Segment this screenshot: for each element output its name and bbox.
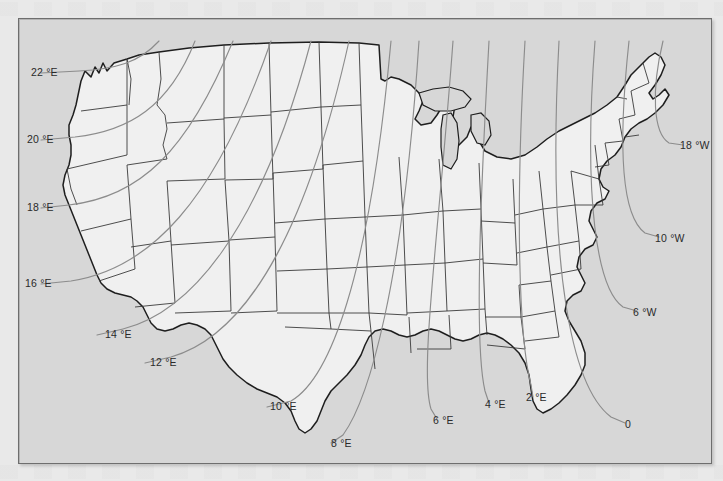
declination-label-12E: 12 °E	[150, 357, 177, 368]
declination-label-18E: 18 °E	[27, 202, 54, 213]
scan-bleed-bottom	[0, 465, 723, 479]
declination-label-6W: 6 °W	[633, 307, 657, 318]
declination-label-4E: 4 °E	[485, 399, 506, 410]
declination-label-16E: 16 °E	[25, 278, 52, 289]
declination-label-18W: 18 °W	[680, 140, 710, 151]
declination-label-14E: 14 °E	[105, 329, 132, 340]
figure-page: 22 °E 20 °E 18 °E 16 °E 14 °E 12 °E 10 °…	[0, 0, 723, 481]
isogonic-line-18W	[655, 41, 683, 145]
declination-label-0: 0	[625, 419, 631, 430]
declination-map	[19, 19, 711, 463]
scan-bleed-top	[0, 2, 723, 16]
declination-label-8E: 8 °E	[331, 438, 352, 449]
lake-superior	[419, 87, 471, 111]
declination-label-2E: 2 °E	[526, 392, 547, 403]
declination-label-6E: 6 °E	[433, 415, 454, 426]
declination-label-20E: 20 °E	[27, 134, 54, 145]
map-frame: 22 °E 20 °E 18 °E 16 °E 14 °E 12 °E 10 °…	[18, 18, 712, 464]
declination-label-10W: 10 °W	[655, 233, 685, 244]
declination-label-22E: 22 °E	[31, 67, 58, 78]
declination-label-10E: 10 °E	[270, 401, 297, 412]
